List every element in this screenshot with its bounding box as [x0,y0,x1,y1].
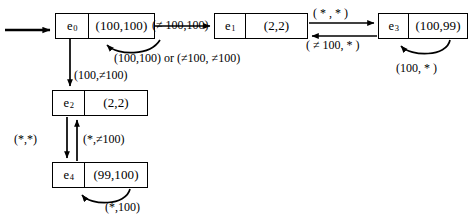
state-id-e1: e1 [215,14,246,38]
state-node-e0[interactable]: e0 (100,100) [55,13,155,39]
state-node-e3[interactable]: e3 (100,99) [378,13,468,39]
state-node-e4[interactable]: e4 (99,100) [52,162,148,188]
state-value-e4: (99,100) [85,163,147,187]
state-id-e3: e3 [379,14,409,38]
state-id-subscript-e0: 0 [73,23,77,33]
edge-label-e4-to-e2: (*,≠100) [83,133,125,145]
state-id-subscript-e1: 1 [231,23,235,33]
state-value-e1: (2,2) [246,14,307,38]
state-id-subscript-e2: 2 [70,100,74,110]
edge-label-e3-to-e1: ( ≠ 100, * ) [306,39,360,51]
edge-label-e2-to-e4: (*,*) [14,133,37,145]
state-id-e2: e2 [53,91,85,115]
edge-label-e4-self-loop: (*,100) [105,201,140,213]
state-value-e3: (100,99) [409,14,467,38]
state-id-subscript-e3: 3 [395,23,399,33]
state-node-e2[interactable]: e2 (2,2) [52,90,148,116]
state-id-subscript-e4: 4 [70,172,74,182]
state-value-e2: (2,2) [85,91,147,115]
state-id-e4: e4 [53,163,85,187]
state-id-e0: e0 [56,14,89,38]
state-node-e1[interactable]: e1 (2,2) [214,13,308,39]
edge-label-e3-self-loop: (100, * ) [396,62,437,74]
edge-label-e0-to-e2: (100,≠100) [74,69,128,81]
edge-e3-self-loop [401,40,450,54]
edge-label-e0-to-e1: (≠ 100,100) [152,19,209,31]
state-value-e0: (100,100) [89,14,154,38]
state-diagram-canvas: e0 (100,100) e1 (2,2) e3 (100,99) e2 (2,… [0,0,476,222]
edge-label-e0-self-loop: (100,100) or (≠100, ≠100) [114,52,240,64]
edge-label-e1-to-e3: ( * , * ) [313,7,348,19]
